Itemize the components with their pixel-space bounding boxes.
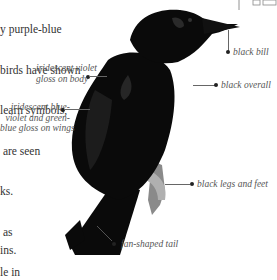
pointer-dot-overall xyxy=(214,83,218,87)
label-black-bill: black bill xyxy=(233,47,269,58)
pointer-dot-bill xyxy=(226,50,230,54)
leader-line-wing-gloss xyxy=(64,109,90,110)
label-legs-feet: black legs and feet xyxy=(197,179,268,190)
leader-line-overall xyxy=(193,85,215,86)
leader-line-body-gloss xyxy=(89,76,107,77)
label-body-gloss: iridescent violet gloss on body xyxy=(36,63,84,84)
label-black-overall: black overall xyxy=(221,80,271,91)
label-wing-gloss: iridescent blue- violet and green- blue … xyxy=(0,102,70,134)
body-line: le in xyxy=(0,266,90,280)
leader-line-bill xyxy=(228,30,229,52)
label-fan-tail: fan-shaped tail xyxy=(121,239,178,250)
pointer-dot-legs xyxy=(190,182,194,186)
pointer-dot-tail xyxy=(112,242,116,246)
leader-line-legs xyxy=(165,184,190,185)
